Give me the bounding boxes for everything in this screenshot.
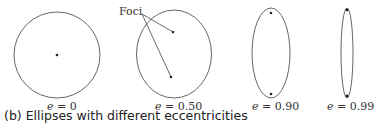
focus-dot: [346, 95, 349, 98]
foci-label: Foci: [119, 5, 142, 18]
ellipse-e099: [341, 8, 353, 98]
label-e099: e = 0.99: [327, 100, 374, 113]
focus-dot: [270, 12, 273, 15]
ellipse-e050: [137, 10, 212, 98]
figure-caption: (b) Ellipses with different eccentriciti…: [4, 108, 248, 123]
foci-pointer-line: [142, 14, 173, 32]
focus-dot: [346, 9, 349, 12]
foci-pointer-line: [142, 14, 171, 77]
label-e090: e = 0.90: [252, 100, 299, 113]
ellipse-e090: [252, 8, 290, 98]
focus-dot: [56, 54, 59, 57]
ellipse-e0: [14, 12, 100, 98]
focus-dot: [270, 93, 273, 96]
